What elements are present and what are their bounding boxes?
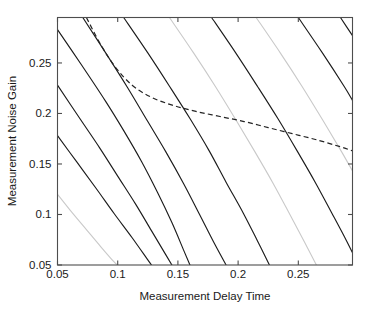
y-tick-label: 0.2 <box>36 107 52 119</box>
x-tick-label: 0.25 <box>287 268 309 280</box>
x-tick-label: 0.15 <box>167 268 189 280</box>
y-tick-label: 0.05 <box>29 259 51 271</box>
contour-plot: 0.050.10.150.20.250.050.10.150.20.25 Mea… <box>0 0 371 309</box>
x-axis-title: Measurement Delay Time <box>139 290 270 302</box>
y-tick-label: 0.25 <box>29 57 51 69</box>
x-tick-label: 0.2 <box>230 268 246 280</box>
figure-canvas: 0.050.10.150.20.250.050.10.150.20.25 Mea… <box>0 0 371 309</box>
x-tick-label: 0.1 <box>110 268 126 280</box>
y-tick-label: 0.15 <box>29 158 51 170</box>
y-tick-label: 0.1 <box>36 208 52 220</box>
y-axis-title: Measurement Noise Gain <box>6 76 18 206</box>
